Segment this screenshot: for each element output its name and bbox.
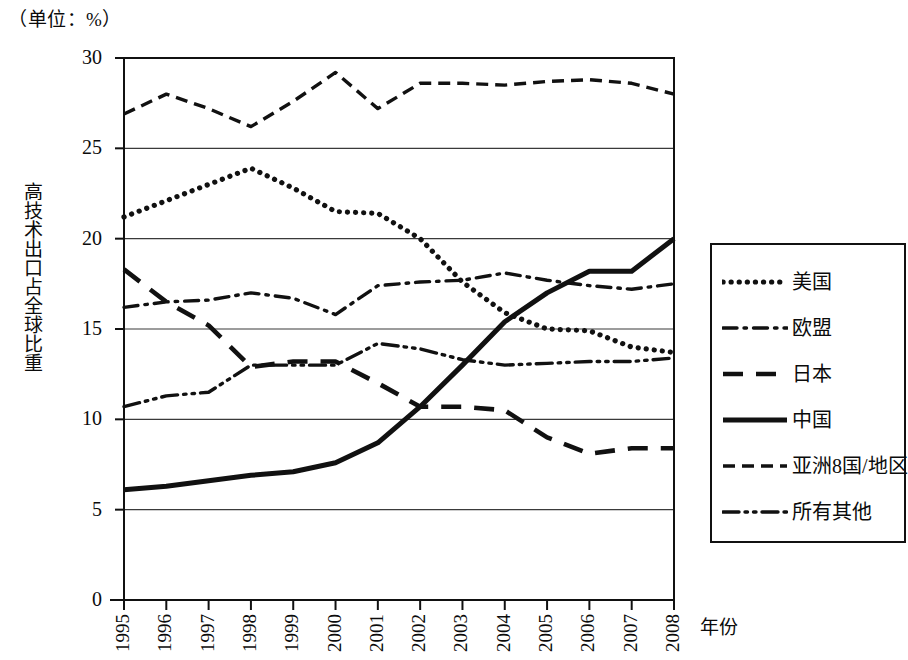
series-line-4 <box>124 72 674 126</box>
y-tick-label: 25 <box>62 137 102 157</box>
legend-label: 亚洲8国/地区 <box>792 456 908 476</box>
y-tick-label: 30 <box>62 47 102 67</box>
y-tick-label: 0 <box>62 589 102 609</box>
x-tick-label: 2000 <box>325 614 344 652</box>
unit-note: （单位：%） <box>8 4 122 31</box>
y-tick-label: 5 <box>62 499 102 519</box>
legend-label: 中国 <box>792 410 832 430</box>
x-tick-label: 2004 <box>494 614 513 652</box>
legend-item-1[interactable]: 欧盟 <box>712 305 908 351</box>
legend-item-3[interactable]: 中国 <box>712 397 908 443</box>
x-tick-label: 2008 <box>663 614 682 652</box>
legend-item-5[interactable]: 所有其他 <box>712 489 908 535</box>
legend-swatch-icon <box>722 503 788 521</box>
x-tick-label: 1999 <box>282 614 301 652</box>
x-tick-label: 2007 <box>621 614 640 652</box>
chart-legend: 美国欧盟日本中国亚洲8国/地区所有其他 <box>710 243 906 543</box>
legend-label: 所有其他 <box>792 502 872 522</box>
series-line-5 <box>124 343 674 406</box>
chart-figure: （单位：%） 高技术出口占全球比重 年份 051015202530 199519… <box>0 0 908 660</box>
legend-label: 日本 <box>792 364 832 384</box>
legend-swatch-icon <box>722 273 788 291</box>
legend-label: 美国 <box>792 272 832 292</box>
y-tick-label: 20 <box>62 228 102 248</box>
legend-item-0[interactable]: 美国 <box>712 259 908 305</box>
x-tick-label: 1996 <box>155 614 174 652</box>
y-axis-title: 高技术出口占全球比重 <box>16 182 42 372</box>
series-line-1 <box>124 273 674 315</box>
legend-swatch-icon <box>722 319 788 337</box>
legend-swatch-icon <box>722 411 788 429</box>
x-tick-label: 1995 <box>113 614 132 652</box>
x-tick-label: 1997 <box>198 614 217 652</box>
x-tick-label: 1998 <box>240 614 259 652</box>
legend-label: 欧盟 <box>792 318 832 338</box>
series-line-3 <box>124 239 674 490</box>
x-tick-label: 2002 <box>409 614 428 652</box>
x-tick-label: 2006 <box>578 614 597 652</box>
legend-swatch-icon <box>722 457 788 475</box>
x-tick-label: 2001 <box>367 614 386 652</box>
y-tick-label: 10 <box>62 408 102 428</box>
legend-item-4[interactable]: 亚洲8国/地区 <box>712 443 908 489</box>
legend-item-2[interactable]: 日本 <box>712 351 908 397</box>
y-tick-label: 15 <box>62 318 102 338</box>
x-axis-title: 年份 <box>700 612 738 639</box>
x-tick-label: 2003 <box>451 614 470 652</box>
legend-swatch-icon <box>722 365 788 383</box>
x-tick-label: 2005 <box>536 614 555 652</box>
